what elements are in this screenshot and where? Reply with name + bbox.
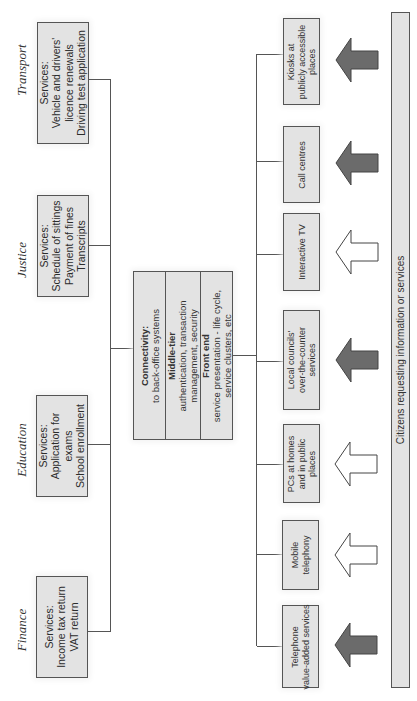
channel-kiosks: Kiosks at publicly accessible places bbox=[283, 18, 320, 105]
finance-connector bbox=[88, 631, 111, 632]
education-services-box: Services: Application for exams School e… bbox=[36, 395, 88, 497]
dept-label-finance: Finance bbox=[14, 600, 30, 660]
kiosks-connector bbox=[257, 54, 283, 55]
justice-services-box: Services: Schedule of sittings Payment o… bbox=[37, 195, 89, 297]
pcs-connector bbox=[257, 464, 283, 465]
dept-label-justice: Justice bbox=[14, 230, 30, 290]
callcentres-connector bbox=[257, 161, 283, 162]
arrow-outline-icon bbox=[335, 229, 379, 275]
middle-tier-section: Middle-tier authentication, transaction … bbox=[166, 272, 201, 439]
central-hub-box: Connectivity: to back-office systems Mid… bbox=[133, 271, 233, 440]
right-trunk-line bbox=[256, 54, 257, 646]
arrow-filled-icon bbox=[335, 37, 379, 83]
channel-telephone: Telephone value-added services bbox=[282, 605, 319, 688]
mobile-connector bbox=[257, 554, 283, 555]
channel-call-centres: Call centres bbox=[283, 126, 320, 203]
justice-connector bbox=[89, 245, 111, 246]
telephone-connector bbox=[257, 646, 283, 647]
education-connector bbox=[88, 444, 111, 445]
arrow-outline-icon bbox=[334, 441, 378, 487]
councils-connector bbox=[257, 361, 283, 362]
channel-mobile: Mobile telephony bbox=[282, 520, 319, 590]
finance-services-box: Services: Income tax return VAT return bbox=[36, 576, 88, 678]
arrow-filled-icon bbox=[335, 337, 379, 383]
channel-interactive-tv: Interactive TV bbox=[283, 213, 320, 291]
left-trunk-line bbox=[110, 79, 111, 631]
dept-label-education: Education bbox=[14, 415, 30, 485]
citizens-bar: Citizens requesting information or servi… bbox=[391, 12, 410, 688]
arrow-outline-icon bbox=[334, 532, 378, 578]
itv-connector bbox=[257, 254, 283, 255]
transport-services-box: Services: Vehicle and drivers' licence r… bbox=[37, 22, 89, 144]
arrow-filled-icon bbox=[335, 140, 379, 186]
hub-right-connector bbox=[233, 355, 257, 356]
connectivity-section: Connectivity: to back-office systems bbox=[134, 272, 166, 439]
transport-connector bbox=[89, 79, 111, 80]
front-end-section: Front end service presentation - life cy… bbox=[201, 272, 232, 439]
channel-pcs: PCs at homes and in public places bbox=[283, 424, 320, 503]
dept-label-transport: Transport bbox=[14, 35, 30, 105]
hub-left-connector bbox=[111, 348, 134, 349]
channel-local-councils: Local councils' over-the-counter service… bbox=[283, 310, 320, 410]
arrow-filled-icon bbox=[334, 622, 378, 668]
